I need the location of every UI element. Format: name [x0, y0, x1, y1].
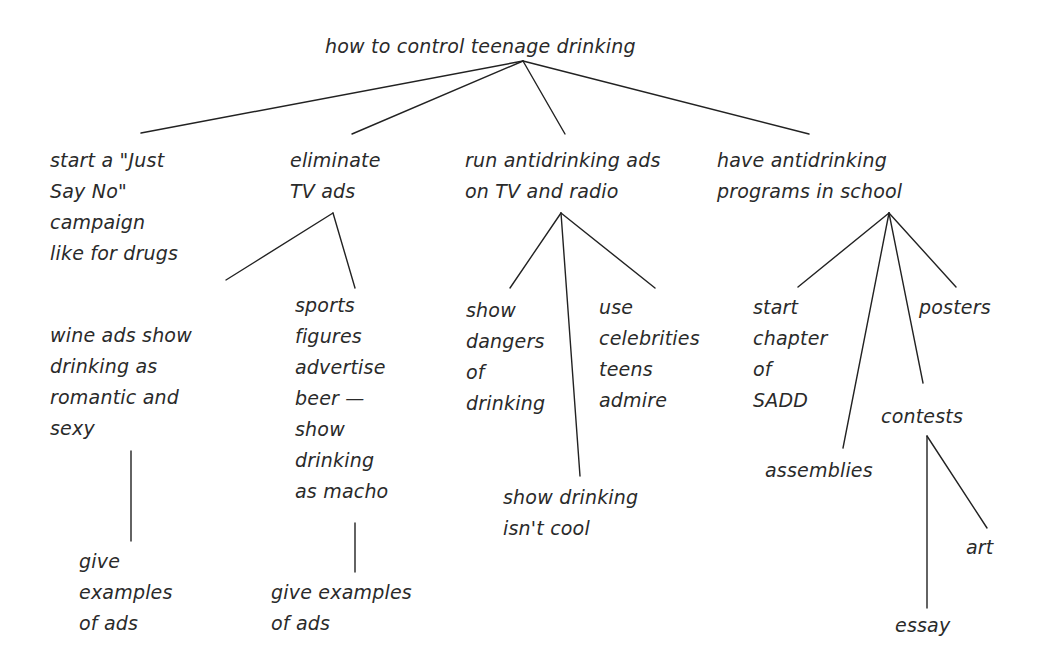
edge-root-just-say-no — [141, 61, 523, 133]
node-use-celebrities: use celebrities teens admire — [599, 292, 700, 416]
node-root: how to control teenage drinking — [325, 31, 636, 62]
node-posters: posters — [919, 292, 991, 323]
edge-root-eliminate — [352, 61, 523, 134]
edge-school-posters — [889, 213, 956, 287]
node-contests: contests — [881, 401, 963, 432]
node-just-say-no: start a "Just Say No" campaign like for … — [50, 145, 178, 269]
node-wine-ads: wine ads show drinking as romantic and s… — [50, 320, 192, 444]
edge-eliminate-sports — [333, 213, 355, 288]
edge-run-celebrities — [561, 213, 655, 288]
node-essay: essay — [895, 610, 950, 641]
node-run-ads: run antidrinking ads on TV and radio — [465, 145, 661, 207]
edge-root-run-ads — [523, 61, 565, 134]
node-sadd: start chapter of SADD — [753, 292, 828, 416]
edge-run-notcool — [561, 213, 580, 476]
node-show-dangers: show dangers of drinking — [466, 295, 545, 419]
node-sports-figures: sports figures advertise beer — show dri… — [295, 290, 388, 507]
tree-diagram: how to control teenage drinking start a … — [0, 0, 1061, 672]
node-wine-examples: give examples of ads — [79, 546, 173, 639]
edge-run-dangers — [510, 213, 561, 288]
node-not-cool: show drinking isn't cool — [503, 482, 638, 544]
node-assemblies: assemblies — [765, 455, 873, 486]
edge-eliminate-wine — [226, 213, 333, 280]
node-sports-examples: give examples of ads — [271, 577, 412, 639]
node-school-programs: have antidrinking programs in school — [717, 145, 902, 207]
edge-root-school — [523, 61, 809, 134]
edge-contests-art — [927, 436, 987, 528]
edge-school-contests — [889, 213, 923, 383]
edge-school-sadd — [798, 213, 889, 287]
node-eliminate-tv-ads: eliminate TV ads — [290, 145, 381, 207]
node-art: art — [966, 532, 994, 563]
